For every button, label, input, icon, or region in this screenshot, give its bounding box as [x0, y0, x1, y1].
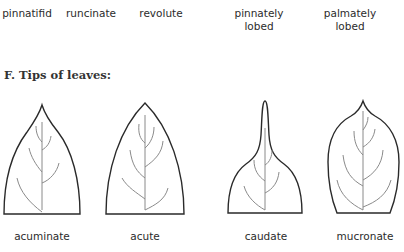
leaf-label-mucronate: mucronate — [333, 230, 397, 243]
leaf-label-acuminate: acuminate — [12, 230, 72, 243]
leaf-acute-drawing — [106, 103, 184, 214]
leaf-mucronate-drawing — [328, 101, 399, 213]
leaf-tips-illustration — [0, 0, 404, 252]
leaf-caudate-drawing — [228, 101, 302, 213]
leaf-label-caudate: caudate — [238, 230, 294, 243]
leaf-label-acute: acute — [117, 230, 173, 243]
leaf-acuminate-drawing — [4, 105, 80, 214]
